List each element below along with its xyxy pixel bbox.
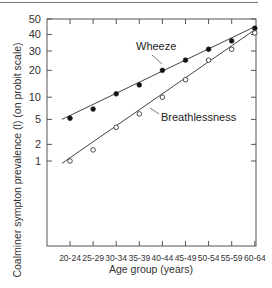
- breathlessness-label: Breathlessness: [161, 111, 237, 123]
- breathlessness-point: [114, 125, 119, 130]
- wheeze-point: [252, 26, 257, 31]
- breathlessness-point: [206, 58, 211, 63]
- x-tick-label: 45-49: [175, 253, 197, 263]
- plot-frame: [47, 19, 256, 246]
- x-axis-title: Age group (years): [109, 263, 193, 275]
- y-tick-label: 5: [35, 113, 41, 125]
- wheeze-point: [137, 83, 142, 88]
- x-axis: 20-2425-2930-3435-3940-4445-4950-5455-59…: [59, 19, 266, 263]
- x-tick-label: 60-64: [244, 253, 266, 263]
- wheeze-point: [160, 68, 165, 73]
- breathlessness-point: [160, 95, 165, 100]
- breathlessness-point: [183, 77, 188, 82]
- y-tick-label: 50: [29, 13, 41, 25]
- x-tick-label: 40-44: [152, 253, 174, 263]
- breathlessness-point: [68, 159, 73, 164]
- breathlessness-point: [229, 47, 234, 52]
- y-tick-label: 40: [29, 28, 41, 40]
- x-tick-label: 50-54: [198, 253, 220, 263]
- x-tick-label: 35-39: [128, 253, 150, 263]
- y-axis-title: Coalminer sympton prevalence (l) (on pro…: [11, 42, 23, 277]
- wheeze-label: Wheeze: [136, 40, 176, 52]
- y-tick-label: 2: [35, 138, 41, 150]
- breathlessness-point: [137, 112, 142, 117]
- y-tick-label: 1: [35, 155, 41, 167]
- breathlessness-leader-line: [150, 108, 159, 114]
- x-tick-label: 30-34: [105, 253, 127, 263]
- wheeze-point: [91, 107, 96, 112]
- wheeze-point: [114, 91, 119, 96]
- y-tick-label: 10: [29, 91, 41, 103]
- breathlessness-point: [91, 148, 96, 153]
- breathlessness-point: [253, 31, 258, 36]
- wheeze-point: [206, 47, 211, 52]
- probit-chart: 1251020304050 20-2425-2930-3435-3940-444…: [0, 0, 272, 288]
- x-tick-label: 55-59: [221, 253, 243, 263]
- wheeze-point: [183, 58, 188, 63]
- plot-border: [47, 19, 256, 246]
- wheeze-leader-line: [152, 55, 162, 64]
- x-tick-label: 25-29: [82, 253, 104, 263]
- wheeze-point: [229, 38, 234, 43]
- y-tick-label: 30: [29, 45, 41, 57]
- y-tick-label: 20: [29, 64, 41, 76]
- x-tick-label: 20-24: [59, 253, 81, 263]
- y-axis: 1251020304050: [29, 13, 256, 167]
- wheeze-point: [68, 116, 73, 121]
